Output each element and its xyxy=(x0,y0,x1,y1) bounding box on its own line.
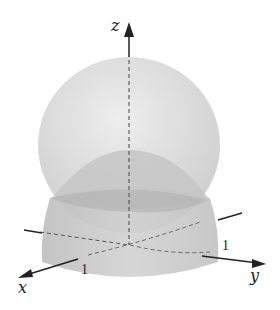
y-tick-label: 1 xyxy=(222,238,229,254)
x-axis-label: x xyxy=(18,278,27,297)
z-axis-label: z xyxy=(111,16,119,35)
x-axis-arrowhead xyxy=(18,269,33,278)
x-tick-label: 1 xyxy=(81,262,88,278)
y-axis-neg-stub xyxy=(24,230,42,233)
y-axis-back-stub xyxy=(218,213,242,220)
z-axis-arrowhead xyxy=(124,22,134,37)
y-axis-label: y xyxy=(250,266,259,285)
sphere-cylinder-figure xyxy=(0,0,280,310)
